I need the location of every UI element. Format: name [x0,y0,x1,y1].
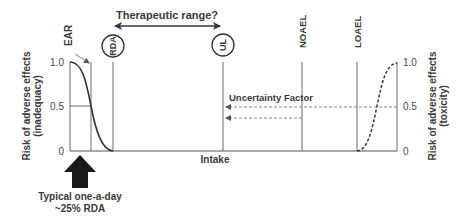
uncertainty-factor-label: Uncertainty Factor [229,92,313,103]
one-a-day-arrow-icon [64,155,96,188]
left-axis-sublabel: (inadequacy) [32,75,43,137]
left-tick-05: 0.5 [50,101,64,112]
left-tick-1: 1.0 [50,57,64,68]
therapeutic-range-title: Therapeutic range? [116,9,218,21]
right-axis-label: Risk of adverse effects [427,51,438,160]
nutrient-risk-diagram: Therapeutic range? EAR RDA UL NOAEL LOAE… [0,0,463,221]
ul-label: UL [218,39,228,51]
rda-label: RDA [108,36,118,56]
noael-label: NOAEL [297,15,308,48]
loael-label: LOAEL [352,16,363,48]
intake-label: Intake [201,154,230,165]
right-tick-05: 0.5 [403,101,417,112]
ear-label: EAR [63,24,74,46]
ear-pointer-arrow [75,54,89,63]
right-axis-sublabel: (toxicity) [438,85,449,127]
callout-line2: ~25% RDA [55,203,105,214]
right-tick-0: 0 [403,146,409,157]
left-tick-0: 0 [58,146,64,157]
callout-line1: Typical one-a-day [38,191,122,202]
right-tick-1: 1.0 [403,57,417,68]
left-axis-label: Risk of adverse effects [21,51,32,160]
